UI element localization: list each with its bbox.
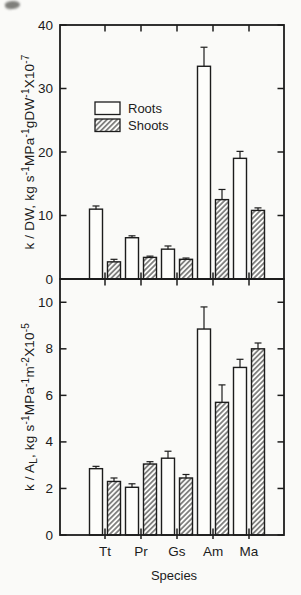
bar-roots-tt xyxy=(90,209,103,279)
bar-shoots-gs xyxy=(180,259,193,279)
bar-shoots-ma xyxy=(252,349,265,535)
figure-container: 010203040k / DW, kg s-1MPa-1gDW-1X10-702… xyxy=(0,0,301,595)
y-axis-label-bottom: k / AL, kg s-1MPa-1m-2X10-5 xyxy=(20,323,39,491)
legend-item-roots: Roots xyxy=(95,101,162,116)
y-axis-label-segment: m xyxy=(22,366,37,377)
bar-roots-tt xyxy=(90,469,103,535)
y-axis-label-segment: MPa xyxy=(22,387,37,416)
y-axis-label-segment: -1 xyxy=(20,377,31,387)
legend-item-shoots: Shoots xyxy=(95,118,169,133)
y-tick-label: 10 xyxy=(38,208,53,223)
y-axis-label-segment: -1 xyxy=(20,128,31,138)
legend-swatch-open xyxy=(95,102,120,115)
x-tick-label-ma: Ma xyxy=(240,544,259,559)
y-axis-label-segment: , kg s xyxy=(22,425,37,459)
y-tick-label: 6 xyxy=(45,388,53,403)
y-axis-label-top: k / DW, kg s-1MPa-1gDW-1X10-7 xyxy=(20,54,37,249)
bar-roots-ma xyxy=(234,367,247,535)
bar-shoots-tt xyxy=(108,481,121,535)
x-axis: TtPrGsAmMaSpecies xyxy=(99,544,259,583)
y-axis-label-segment: -1 xyxy=(20,415,31,425)
legend: RootsShoots xyxy=(95,101,169,133)
y-axis-label-segment: -1 xyxy=(20,88,31,98)
y-tick-label: 0 xyxy=(45,272,53,287)
legend-label: Shoots xyxy=(128,118,169,133)
panel-top: 010203040k / DW, kg s-1MPa-1gDW-1X10-7 xyxy=(20,18,284,287)
y-tick-label: 20 xyxy=(38,145,53,160)
y-axis-label-segment: X10 xyxy=(22,332,37,357)
y-axis-label-segment: -2 xyxy=(20,357,31,367)
bar-shoots-am xyxy=(216,200,229,279)
y-axis-label-segment: gDW xyxy=(22,98,37,129)
bar-shoots-ma xyxy=(252,210,265,279)
bar-shoots-am xyxy=(216,402,229,535)
bar-roots-am xyxy=(198,66,211,279)
bar-shoots-pr xyxy=(144,257,157,279)
bar-shoots-pr xyxy=(144,464,157,535)
bar-shoots-gs xyxy=(180,478,193,535)
x-tick-label-tt: Tt xyxy=(99,544,111,559)
panel-bottom: 0246810k / AL, kg s-1MPa-1m-2X10-5 xyxy=(20,279,284,543)
y-tick-label: 2 xyxy=(45,481,53,496)
y-axis-label-segment: MPa xyxy=(22,137,37,166)
x-tick-label-gs: Gs xyxy=(168,544,186,559)
y-axis-label-segment: -1 xyxy=(20,166,31,176)
y-tick-label: 4 xyxy=(45,434,53,449)
y-axis-label-segment: X10 xyxy=(22,64,37,89)
bar-roots-pr xyxy=(126,487,139,535)
legend-label: Roots xyxy=(128,101,162,116)
y-axis-label-segment: -7 xyxy=(20,54,31,64)
grouped-bar-chart-figure: 010203040k / DW, kg s-1MPa-1gDW-1X10-702… xyxy=(0,0,301,595)
bar-roots-pr xyxy=(126,238,139,279)
y-tick-label: 0 xyxy=(45,528,53,543)
x-tick-label-am: Am xyxy=(203,544,223,559)
bar-shoots-tt xyxy=(108,262,121,279)
bar-roots-gs xyxy=(162,249,175,279)
bar-roots-ma xyxy=(234,158,247,279)
y-tick-label: 10 xyxy=(38,295,53,310)
y-tick-label: 8 xyxy=(45,341,53,356)
legend-swatch-hatched xyxy=(95,119,120,132)
x-axis-title: Species xyxy=(151,568,198,583)
y-axis-label-segment: k / A xyxy=(22,464,37,491)
y-axis-label-segment: -5 xyxy=(20,323,31,333)
bar-roots-gs xyxy=(162,458,175,535)
y-axis-label-segment: k / DW, kg s xyxy=(22,175,37,249)
x-tick-label-pr: Pr xyxy=(134,544,148,559)
y-tick-label: 30 xyxy=(38,81,53,96)
bar-roots-am xyxy=(198,329,211,535)
y-tick-label: 40 xyxy=(38,18,53,33)
